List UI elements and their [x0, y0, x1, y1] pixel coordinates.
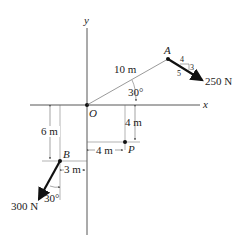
angle-arc-b: [50, 186, 60, 187]
point-b-label: B: [63, 148, 70, 160]
point-p: [123, 140, 127, 144]
x-axis-label: x: [202, 98, 208, 110]
b-dx-label: 3 m: [64, 163, 81, 175]
p-dy-label: 4 m: [125, 116, 142, 128]
angle-a-label: 30°: [128, 86, 143, 98]
slope-rise: 3: [190, 63, 194, 72]
force-diagram: y x O A 10 m 30° 250 N 4 3 5 4 m P 4 m 6…: [0, 0, 239, 248]
slope-run: 4: [180, 55, 184, 64]
origin-label: O: [89, 107, 97, 119]
b-dy-label: 6 m: [41, 125, 58, 137]
p-dx-label: 4 m: [96, 144, 113, 156]
angle-b-label: 30°: [44, 192, 59, 204]
y-axis-label: y: [83, 14, 89, 26]
point-a-label: A: [163, 44, 171, 56]
distance-a-label: 10 m: [114, 63, 137, 75]
force-arrow-a: [168, 59, 202, 80]
force-b-label: 300 N: [11, 200, 38, 212]
point-p-label: P: [127, 143, 135, 155]
slope-hyp: 5: [177, 69, 181, 78]
force-a-label: 250 N: [205, 75, 232, 87]
